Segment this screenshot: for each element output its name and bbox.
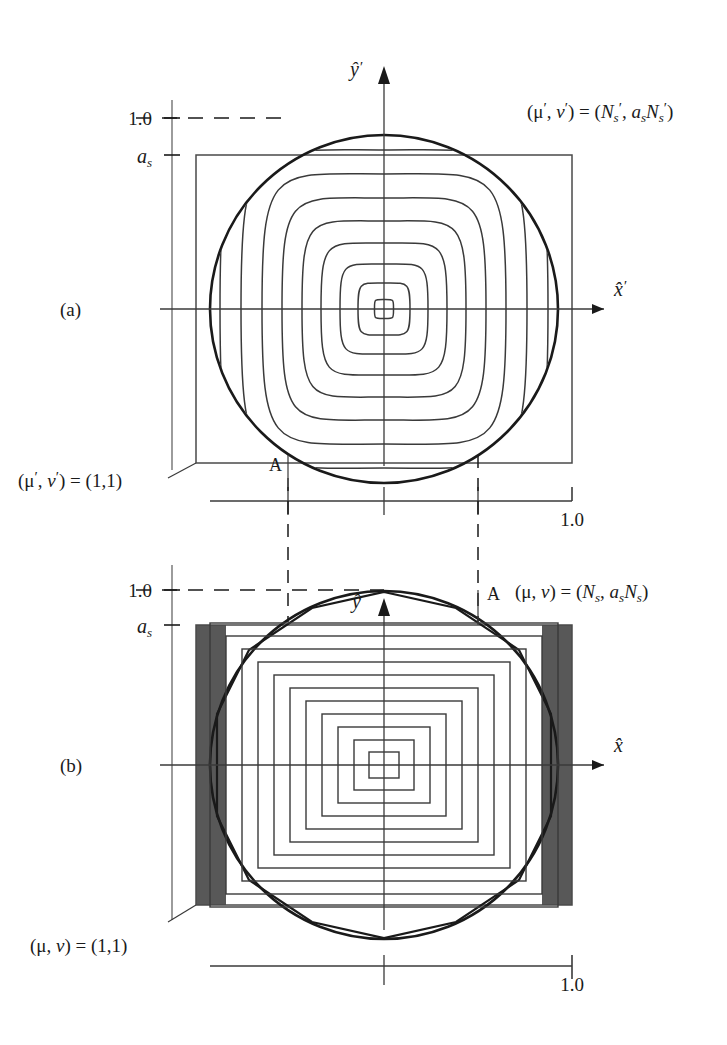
panel-a-label: (a) [60,299,81,321]
panel-b-scale-end-label: 1.0 [560,974,584,995]
panel-a-y-axis-arrowhead [378,66,390,84]
panel-b-origin-label: (μ, ν) = (1,1) [30,935,127,957]
panel-b-y-axis-label: ŷ [350,590,361,613]
panel-a-y-axis-label: ŷ′ [348,58,363,81]
panel-b-point-label: A [487,584,500,604]
panel-b-ylabel-one: 1.0 [128,580,152,601]
panel-b-x-axis-label: x̂ [613,734,623,756]
panel-a-point-label: A [269,455,282,475]
panel-a-corner-label: (μ′, ν′) = (Ns′, asNs′) [527,100,673,125]
panel-a-x-axis-label: x̂′ [613,278,627,300]
figure-root: 1.0 as (a) x̂′ ŷ′ (μ′, ν′) = (Ns′, asNs… [0,0,727,1045]
panel-a-ylabel-as: as [137,145,152,170]
panel-b-corner-label: (μ, ν) = (Ns, asNs) [515,581,648,605]
panel-a: 1.0 as (a) x̂′ ŷ′ (μ′, ν′) = (Ns′, asNs… [18,58,673,530]
panel-a-ylabel-one: 1.0 [128,108,152,129]
panel-b: 1.0 as (b) x̂ ŷ (μ, ν) = (Ns, asNs) (μ,… [30,565,648,995]
panel-b-ylabel-as: as [137,615,152,640]
panel-a-scale-end-label: 1.0 [560,509,584,530]
panel-b-x-axis-arrowhead [592,760,604,770]
panel-connectors [288,455,478,622]
panel-a-x-axis-arrowhead [592,304,604,314]
technical-figure: 1.0 as (a) x̂′ ŷ′ (μ′, ν′) = (Ns′, asNs… [0,0,727,1045]
panel-b-y-axis-arrowhead [378,598,390,616]
panel-b-label: (b) [60,755,82,777]
panel-a-origin-label: (μ′, ν′) = (1,1) [18,469,122,492]
